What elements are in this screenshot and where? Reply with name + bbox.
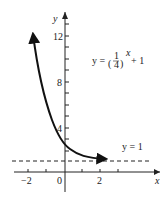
y-axis-label: y (52, 13, 58, 24)
svg-text:+ 1: + 1 (131, 55, 144, 66)
x-tick-label: 0 (57, 175, 62, 186)
equation-label: y = ( 1 4 ) x + 1 (92, 47, 144, 70)
exponential-curve (33, 34, 106, 159)
x-axis: −2 0 2 x (14, 169, 160, 186)
svg-text:): ) (120, 58, 123, 70)
svg-text:4: 4 (114, 59, 119, 70)
x-tick-label: −2 (21, 175, 32, 186)
x-tick-label: 2 (97, 175, 102, 186)
exponential-graph: −2 0 2 x 12 8 4 y y = 1 y = ( 1 4 ) x (0, 0, 167, 204)
y-tick-label: 8 (57, 77, 62, 88)
svg-text:y =: y = (92, 55, 106, 66)
y-axis: 12 8 4 y (52, 12, 69, 192)
asymptote-label: y = 1 (122, 141, 143, 152)
svg-text:(: ( (108, 58, 112, 70)
y-axis-arrow-icon (62, 12, 68, 19)
y-tick-label: 12 (53, 31, 63, 42)
x-axis-label: x (154, 175, 160, 186)
